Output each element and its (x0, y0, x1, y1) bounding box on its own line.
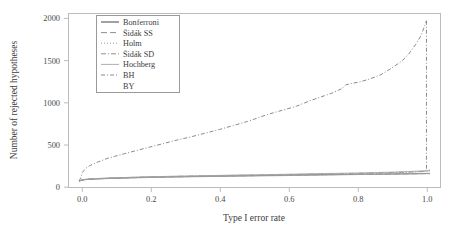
y-axis-tick-labels: 2000 1500 1000 500 0 (43, 14, 60, 192)
y-tick-label: 1500 (43, 57, 60, 66)
y-axis-ticks (64, 18, 69, 187)
y-tick-label: 0 (56, 183, 60, 192)
x-axis-tick-labels: 0.0 0.2 0.4 0.6 0.8 1.0 (77, 195, 432, 204)
legend-label: Hochberg (123, 60, 155, 69)
x-tick-label: 1.0 (422, 195, 432, 204)
x-tick-label: 0.6 (284, 195, 294, 204)
x-axis-title: Type I error rate (223, 213, 285, 223)
chart-figure: 2000 1500 1000 500 0 0.0 0.2 0.4 0.6 0.8… (0, 0, 457, 238)
x-tick-label: 0.0 (77, 195, 87, 204)
x-tick-label: 0.4 (215, 195, 226, 204)
line-chart: 2000 1500 1000 500 0 0.0 0.2 0.4 0.6 0.8… (0, 0, 457, 238)
legend-label: Šidák SS (123, 29, 153, 38)
legend-label: Holm (123, 39, 142, 48)
legend-label: BY (123, 82, 134, 91)
x-tick-label: 0.2 (146, 195, 156, 204)
legend-label: Šidák SD (123, 50, 154, 59)
x-axis-ticks (82, 188, 427, 193)
legend-label: BH (123, 71, 134, 80)
y-tick-label: 500 (47, 141, 60, 150)
legend-label: Bonferroni (123, 18, 160, 27)
x-tick-label: 0.8 (353, 195, 363, 204)
y-tick-label: 2000 (43, 14, 60, 23)
y-axis-title: Number of rejected hypotheses (9, 40, 19, 159)
y-tick-label: 1000 (43, 99, 60, 108)
